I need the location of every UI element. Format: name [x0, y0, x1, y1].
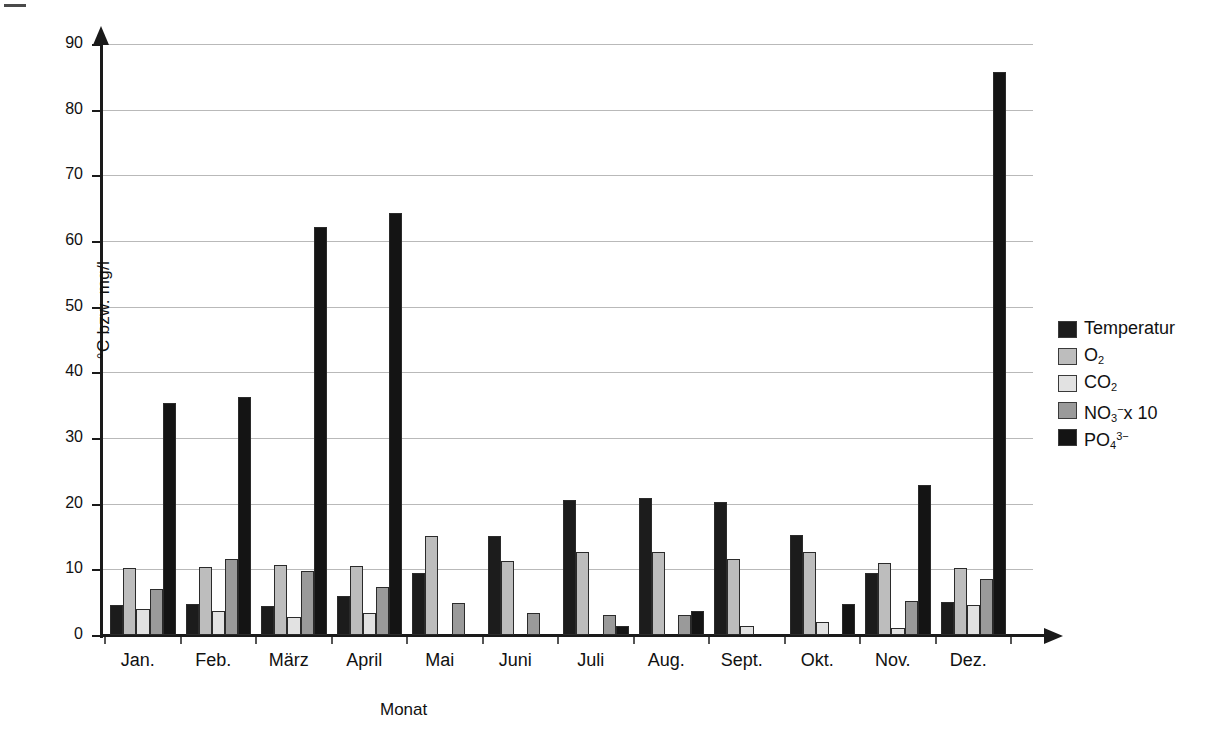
bar-o2-10 [878, 563, 891, 635]
bar-po43--6 [616, 626, 629, 635]
bar-no3-x-10-2 [301, 571, 314, 635]
x-axis-arrow-icon [1044, 628, 1063, 644]
bar-o2-2 [274, 565, 287, 635]
bar-no3-x-10-5 [527, 613, 540, 635]
bar-po43--11 [993, 72, 1006, 635]
x-axis-category-label: Okt. [780, 650, 856, 671]
x-axis-tick [180, 637, 182, 644]
x-axis-category-label: Nov. [855, 650, 931, 671]
x-axis-tick [859, 637, 861, 644]
bar-co2-10 [891, 628, 904, 635]
bar-temperatur-10 [865, 573, 878, 635]
chart-figure: 0102030405060708090 Jan.Feb.MärzAprilMai… [0, 0, 1213, 735]
bar-o2-6 [576, 552, 589, 635]
legend-item-po43-: PO43− [1058, 426, 1208, 453]
bar-co2-0 [136, 609, 149, 635]
bar-temperatur-3 [337, 596, 350, 635]
bar-temperatur-4 [412, 573, 425, 635]
bar-o2-9 [803, 552, 816, 635]
bar-temperatur-7 [639, 498, 652, 635]
y-axis-title: °C bzw. mg/l [94, 200, 114, 420]
y-axis-tick-label: 20 [23, 495, 83, 511]
y-axis-tick-label: 40 [23, 363, 83, 379]
x-axis-category-label: Mai [402, 650, 478, 671]
x-axis-tick [1010, 637, 1012, 644]
bar-co2-11 [967, 605, 980, 635]
x-axis-category-label: Jan. [100, 650, 176, 671]
legend-label: NO3−x 10 [1084, 399, 1158, 429]
legend-item-temperatur: Temperatur [1058, 318, 1208, 345]
legend-swatch-icon [1058, 429, 1077, 446]
x-axis-tick [104, 637, 106, 644]
y-axis-tick-label: 60 [23, 232, 83, 248]
x-axis-tick [708, 637, 710, 644]
x-axis-category-label: Sept. [704, 650, 780, 671]
legend-label: O2 [1084, 345, 1104, 371]
x-axis-title: Monat [380, 700, 427, 720]
bar-po43--10 [918, 485, 931, 635]
x-axis-tick [557, 637, 559, 644]
legend-swatch-icon [1058, 375, 1077, 392]
gridline [103, 44, 1033, 45]
bar-temperatur-0 [110, 605, 123, 635]
y-axis-tick-label: 0 [23, 626, 83, 642]
bar-po43--2 [314, 227, 327, 635]
gridline [103, 110, 1033, 111]
bar-co2-3 [363, 613, 376, 635]
y-axis-tick-label: 70 [23, 166, 83, 182]
legend-item-no3-x-10: NO3−x 10 [1058, 399, 1208, 426]
bar-temperatur-8 [714, 502, 727, 635]
x-axis-tick [482, 637, 484, 644]
gridline [103, 175, 1033, 176]
bar-temperatur-2 [261, 606, 274, 635]
x-axis-category-label: Juni [478, 650, 554, 671]
bar-no3-x-10-10 [905, 601, 918, 635]
bar-o2-4 [425, 536, 438, 635]
x-axis-category-label: Dez. [931, 650, 1007, 671]
bar-no3-x-10-3 [376, 587, 389, 635]
y-axis-tick-label: 80 [23, 101, 83, 117]
x-axis-category-label: Aug. [629, 650, 705, 671]
legend-item-o2: O2 [1058, 345, 1208, 372]
legend-swatch-icon [1058, 402, 1077, 419]
x-axis-category-label: Feb. [176, 650, 252, 671]
bar-o2-8 [727, 559, 740, 635]
y-axis-arrow-icon [93, 26, 109, 45]
bar-no3-x-10-1 [225, 559, 238, 635]
bar-po43--9 [842, 604, 855, 635]
bar-no3-x-10-6 [603, 615, 616, 635]
scan-artifact-mark [4, 4, 26, 7]
x-axis-category-label: April [327, 650, 403, 671]
y-axis-tick-label: 90 [23, 35, 83, 51]
bar-o2-3 [350, 566, 363, 635]
bar-o2-0 [123, 568, 136, 635]
y-axis-tick-label: 10 [23, 560, 83, 576]
bar-co2-8 [740, 626, 753, 635]
x-axis-category-label: Juli [553, 650, 629, 671]
bar-no3-x-10-7 [678, 615, 691, 635]
y-axis-tick-label: 30 [23, 429, 83, 445]
bar-o2-7 [652, 552, 665, 635]
x-axis-tick [331, 637, 333, 644]
bar-co2-9 [816, 622, 829, 635]
bar-no3-x-10-4 [452, 603, 465, 635]
bar-o2-5 [501, 561, 514, 635]
bar-po43--3 [389, 213, 402, 635]
x-axis-category-label: März [251, 650, 327, 671]
gridline [103, 307, 1033, 308]
bar-co2-2 [287, 617, 300, 635]
legend-label: CO2 [1084, 372, 1117, 398]
x-axis-tick [935, 637, 937, 644]
bar-po43--7 [691, 611, 704, 635]
bar-temperatur-9 [790, 535, 803, 635]
bar-o2-11 [954, 568, 967, 635]
y-axis-tick-label: 50 [23, 298, 83, 314]
bar-no3-x-10-11 [980, 579, 993, 635]
bar-temperatur-1 [186, 604, 199, 635]
chart-legend: TemperaturO2CO2NO3−x 10PO43− [1058, 318, 1208, 453]
x-axis-tick [633, 637, 635, 644]
bar-temperatur-6 [563, 500, 576, 635]
legend-label: PO43− [1084, 426, 1129, 456]
legend-item-co2: CO2 [1058, 372, 1208, 399]
x-axis-tick [406, 637, 408, 644]
